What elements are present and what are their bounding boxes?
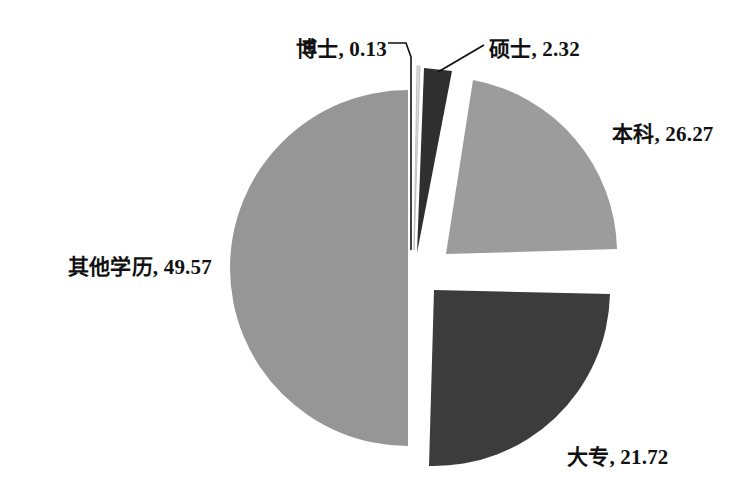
pie-slice-shuoshi[interactable] [417,68,452,253]
pie-label-boshi: 博士, 0.13 [296,32,387,62]
pie-label-shuoshi: 硕士, 2.32 [489,32,580,62]
pie-chart: 博士, 0.13 硕士, 2.32 本科, 26.27 大专, 21.72 其他… [0,0,743,496]
pie-label-qita: 其他学历, 49.57 [68,250,212,280]
pie-chart-canvas [0,0,743,496]
pie-slice-benke[interactable] [446,80,617,254]
leader-line-shuoshi [438,45,484,72]
pie-label-dazhuan: 大专, 21.72 [567,440,669,470]
pie-slice-qita[interactable] [230,90,408,446]
pie-label-benke: 本科, 26.27 [612,117,714,147]
